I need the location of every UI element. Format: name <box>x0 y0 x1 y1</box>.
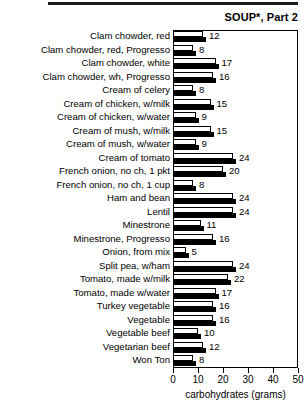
x-tick <box>223 368 224 373</box>
bar-shadow <box>173 213 236 218</box>
bar-value-label: 8 <box>199 354 204 366</box>
x-tick <box>248 368 249 373</box>
bar: 24 <box>173 207 236 219</box>
bar-row: Tomato, made w/water17 <box>0 287 308 302</box>
category-label: Cream of chicken, w/water <box>57 111 170 123</box>
bar-value-label: 20 <box>229 165 240 177</box>
bar: 16 <box>173 234 216 246</box>
x-tick <box>273 368 274 373</box>
bar: 8 <box>173 355 196 367</box>
bar-row: Vegetable beef10 <box>0 327 308 342</box>
category-label: Minestrone <box>123 219 170 231</box>
bar-row: Vegetarian beef12 <box>0 341 308 356</box>
bar-shadow <box>173 132 214 137</box>
bar: 24 <box>173 261 236 273</box>
bar-value-label: 12 <box>209 341 220 353</box>
bar-face <box>173 342 203 348</box>
bar-shadow <box>173 267 236 272</box>
category-label: Vegetable beef <box>106 327 170 339</box>
bar-row: Minestrone11 <box>0 219 308 234</box>
bar-face <box>173 301 213 307</box>
x-axis-title: carbohydrates (grams) <box>173 389 298 400</box>
bar-value-label: 16 <box>219 300 230 312</box>
bar-value-label: 16 <box>219 71 230 83</box>
bar: 8 <box>173 85 196 97</box>
bar-shadow <box>173 105 214 110</box>
bar-row: Turkey vegetable16 <box>0 300 308 315</box>
bar-value-label: 9 <box>202 111 207 123</box>
bar: 24 <box>173 193 236 205</box>
bar: 24 <box>173 153 236 165</box>
bar-shadow <box>173 159 236 164</box>
category-label: Cream of tomato <box>99 152 170 164</box>
bar-row: French onion, no ch, 1 pkt20 <box>0 165 308 180</box>
bar: 5 <box>173 247 189 259</box>
bar-row: Clam chowder, red, Progresso8 <box>0 44 308 59</box>
x-tick-label: 10 <box>192 374 203 386</box>
bar: 16 <box>173 315 216 327</box>
bar-face <box>173 72 213 78</box>
category-label: Cream of mush, w/water <box>66 138 170 150</box>
bar: 17 <box>173 288 219 300</box>
bar-value-label: 17 <box>222 57 233 69</box>
bar-row: Clam chowder, wh, Progresso16 <box>0 71 308 86</box>
x-tick-label: 40 <box>267 374 278 386</box>
bar-shadow <box>173 294 219 299</box>
category-label: Cream of mush, w/milk <box>72 125 170 137</box>
bar: 11 <box>173 220 204 232</box>
header-rule <box>48 2 298 5</box>
bar-shadow <box>173 253 189 258</box>
bar-value-label: 15 <box>217 125 228 137</box>
category-label: Vegetable <box>127 314 170 326</box>
category-label: Cream of celery <box>102 84 170 96</box>
x-tick-label: 20 <box>217 374 228 386</box>
bar-face <box>173 207 233 213</box>
bar-face <box>173 247 186 253</box>
bar-face <box>173 180 193 186</box>
bar: 9 <box>173 139 199 151</box>
bar-row: Clam chowder, red12 <box>0 30 308 45</box>
x-tick <box>298 368 299 373</box>
category-label: French onion, no ch, 1 pkt <box>59 165 170 177</box>
bar: 20 <box>173 166 226 178</box>
category-label: Clam chowder, red, Progresso <box>41 44 170 56</box>
bar: 12 <box>173 31 206 43</box>
bar-value-label: 16 <box>219 314 230 326</box>
bar-shadow <box>173 321 216 326</box>
bar-rows: Clam chowder, red12Clam chowder, red, Pr… <box>0 30 308 368</box>
bar-face <box>173 139 196 145</box>
bar-row: Tomato, made w/milk22 <box>0 273 308 288</box>
x-tick <box>173 368 174 373</box>
bar-value-label: 17 <box>222 287 233 299</box>
category-label: Onion, from mix <box>102 246 170 258</box>
bar-value-label: 8 <box>199 179 204 191</box>
bar-row: Vegetable16 <box>0 314 308 329</box>
bar-row: Lentil24 <box>0 206 308 221</box>
bar-row: Clam chowder, white17 <box>0 57 308 72</box>
category-label: Tomato, made w/water <box>73 287 170 299</box>
bar-row: Cream of chicken, w/milk15 <box>0 98 308 113</box>
bar-row: Won Ton8 <box>0 354 308 369</box>
category-label: French onion, no ch, 1 cup <box>56 179 170 191</box>
bar-value-label: 16 <box>219 233 230 245</box>
bar-row: Cream of mush, w/milk15 <box>0 125 308 140</box>
category-label: Minestrone, Progresso <box>73 233 170 245</box>
bar-shadow <box>173 334 201 339</box>
bar-face <box>173 315 213 321</box>
bar-shadow <box>173 280 231 285</box>
bar: 15 <box>173 99 214 111</box>
bar-face <box>173 126 211 132</box>
x-tick-label: 30 <box>242 374 253 386</box>
bar: 9 <box>173 112 199 124</box>
bar-face <box>173 220 201 226</box>
bar-face <box>173 355 193 361</box>
bar-face <box>173 193 233 199</box>
bar: 17 <box>173 58 219 70</box>
category-label: Clam chowder, red <box>90 30 170 42</box>
bar-shadow <box>173 172 226 177</box>
bar-face <box>173 99 211 105</box>
bar: 10 <box>173 328 201 340</box>
bar-shadow <box>173 118 199 123</box>
bar: 8 <box>173 180 196 192</box>
category-label: Tomato, made w/milk <box>80 273 170 285</box>
